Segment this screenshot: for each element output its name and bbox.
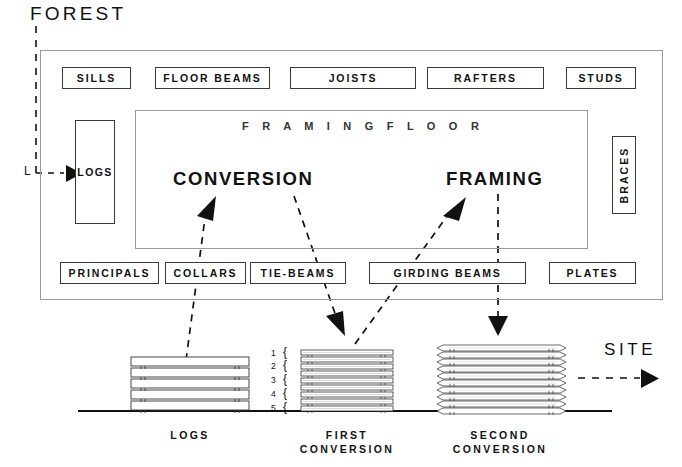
stack-number-1: 1 bbox=[271, 348, 276, 358]
category-label-principals: PRINCIPALS bbox=[69, 267, 151, 279]
category-label-floor-beams: FLOOR BEAMS bbox=[163, 72, 261, 84]
category-label-tie-beams: TIE-BEAMS bbox=[261, 267, 336, 279]
category-box-collars[interactable]: COLLARS bbox=[165, 262, 246, 284]
forest-elbow-marker: L bbox=[24, 165, 31, 177]
stack-second-conversion bbox=[437, 345, 566, 415]
category-box-floor-beams[interactable]: FLOOR BEAMS bbox=[155, 67, 270, 89]
category-label-plates: PLATES bbox=[566, 267, 618, 279]
stack-caption-second-conversion: SECOND CONVERSION bbox=[436, 428, 564, 456]
braces-label: BRACES bbox=[618, 147, 630, 204]
stack-brace-4: { bbox=[283, 386, 287, 400]
logs-store-label: LOGS bbox=[77, 166, 112, 178]
stack-caption-logs-line1: LOGS bbox=[150, 428, 230, 442]
category-box-joists[interactable]: JOISTS bbox=[290, 67, 416, 89]
process-word-framing: FRAMING bbox=[446, 168, 544, 190]
stack-number-2: 2 bbox=[271, 361, 276, 371]
category-label-girding-beams: GIRDING BEAMS bbox=[394, 267, 502, 279]
category-label-collars: COLLARS bbox=[173, 267, 237, 279]
category-box-girding-beams[interactable]: GIRDING BEAMS bbox=[369, 262, 526, 284]
stack-caption-first-line1: FIRST bbox=[287, 428, 407, 442]
category-label-joists: JOISTS bbox=[329, 72, 378, 84]
category-box-rafters[interactable]: RAFTERS bbox=[427, 67, 544, 89]
logs-store-box[interactable]: LOGS bbox=[75, 120, 115, 224]
category-label-studs: STUDS bbox=[578, 72, 623, 84]
stack-brace-3: { bbox=[283, 372, 287, 386]
site-label: SITE bbox=[604, 341, 656, 358]
stack-number-3: 3 bbox=[271, 375, 276, 385]
category-label-sills: SILLS bbox=[77, 72, 116, 84]
category-box-tie-beams[interactable]: TIE-BEAMS bbox=[250, 262, 346, 284]
stack-number-5: 5 bbox=[271, 403, 276, 413]
stack-number-4: 4 bbox=[271, 389, 276, 399]
stack-brace-5: { bbox=[283, 400, 287, 414]
diagram-canvas: FOREST L SITE LOGS BRACES F R A M I N G … bbox=[0, 0, 682, 467]
category-box-sills[interactable]: SILLS bbox=[62, 67, 131, 89]
category-label-rafters: RAFTERS bbox=[454, 72, 517, 84]
stack-caption-first-conversion: FIRST CONVERSION bbox=[287, 428, 407, 456]
category-box-principals[interactable]: PRINCIPALS bbox=[60, 262, 159, 284]
stack-first-conversion bbox=[301, 350, 393, 413]
stack-caption-second-line2: CONVERSION bbox=[436, 442, 564, 456]
site-exit-connector bbox=[578, 369, 659, 388]
stack-caption-first-line2: CONVERSION bbox=[287, 442, 407, 456]
stack-brace-2: { bbox=[283, 358, 287, 372]
forest-label: FOREST bbox=[30, 4, 126, 23]
stack-logs bbox=[131, 357, 249, 413]
stack-caption-second-line1: SECOND bbox=[436, 428, 564, 442]
stack-caption-logs: LOGS bbox=[150, 428, 230, 442]
process-word-conversion: CONVERSION bbox=[173, 168, 313, 190]
stack-brace-1: { bbox=[283, 345, 287, 359]
braces-box[interactable]: BRACES bbox=[612, 136, 636, 214]
framing-floor-label: F R A M I N G F L O O R bbox=[242, 120, 484, 132]
category-box-studs[interactable]: STUDS bbox=[566, 67, 636, 89]
category-box-plates[interactable]: PLATES bbox=[549, 262, 636, 284]
